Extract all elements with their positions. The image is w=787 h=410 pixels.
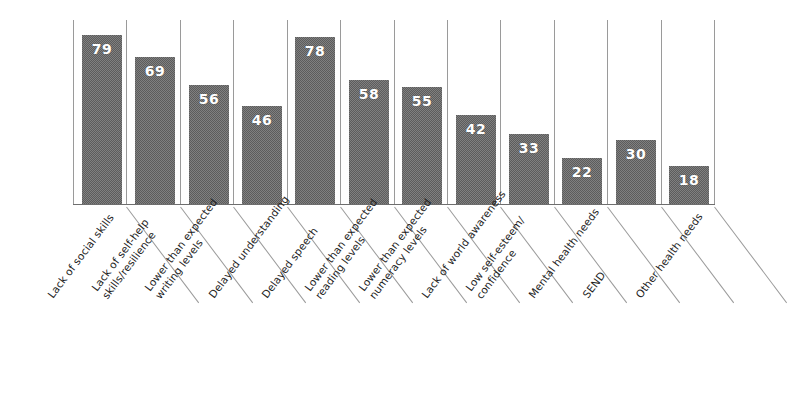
bar[interactable]: 33 xyxy=(509,134,549,205)
bar[interactable]: 58 xyxy=(349,80,389,205)
bar[interactable]: 18 xyxy=(669,166,709,205)
bar[interactable]: 42 xyxy=(456,115,496,205)
bar-value-label: 33 xyxy=(509,141,549,155)
gridline xyxy=(233,20,234,205)
gridline xyxy=(340,20,341,205)
gridline xyxy=(394,20,395,205)
gridline xyxy=(607,20,608,205)
bar[interactable]: 30 xyxy=(616,140,656,205)
bar-value-label: 58 xyxy=(349,87,389,101)
bar[interactable]: 55 xyxy=(402,87,442,205)
gridline xyxy=(287,20,288,205)
gridline xyxy=(73,20,74,205)
category-label: SEND xyxy=(580,270,608,301)
bar-value-label: 18 xyxy=(669,173,709,187)
category-label-line: Lower than expected xyxy=(142,196,219,293)
bar[interactable]: 78 xyxy=(295,37,335,205)
category-leader-line xyxy=(714,207,787,303)
bar[interactable]: 46 xyxy=(242,106,282,205)
bar[interactable]: 56 xyxy=(189,85,229,205)
x-axis-line xyxy=(73,204,715,205)
gridline xyxy=(447,20,448,205)
bar-value-label: 42 xyxy=(456,122,496,136)
category-label-line: SEND xyxy=(580,270,607,301)
bar-value-label: 56 xyxy=(189,92,229,106)
gridline xyxy=(714,20,715,205)
bar-value-label: 78 xyxy=(295,44,335,58)
bar[interactable]: 22 xyxy=(562,158,602,205)
gridline xyxy=(180,20,181,205)
bar-value-label: 55 xyxy=(402,94,442,108)
category-label: Other health needs xyxy=(633,211,705,301)
bar[interactable]: 69 xyxy=(135,57,175,205)
plot-area: 796956467858554233223018 xyxy=(73,20,714,205)
gridline xyxy=(554,20,555,205)
gridline xyxy=(661,20,662,205)
category-label-line: Other health needs xyxy=(633,211,705,301)
bar-value-label: 79 xyxy=(82,42,122,56)
bar-value-label: 46 xyxy=(242,113,282,127)
bar-value-label: 69 xyxy=(135,64,175,78)
bar-value-label: 22 xyxy=(562,165,602,179)
bar-value-label: 30 xyxy=(616,147,656,161)
gridline xyxy=(126,20,127,205)
gridline xyxy=(500,20,501,205)
bar[interactable]: 79 xyxy=(82,35,122,205)
